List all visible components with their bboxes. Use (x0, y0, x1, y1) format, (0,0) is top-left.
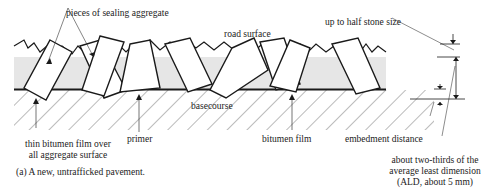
aggregate-label: pieces of sealing aggregate (66, 8, 169, 19)
bitumen-film-label: bitumen film (262, 134, 311, 145)
embedment-label: embedment distance (345, 134, 423, 145)
half-stone-label: up to half stone size (325, 17, 401, 28)
ald-line1: about two-thirds of the (375, 155, 486, 166)
caption: (a) A new, untrafficked pavement. (16, 167, 145, 178)
basecourse-label: basecourse (191, 101, 233, 112)
road-surface-label: road surface (224, 29, 271, 40)
thin-film-label: thin bitumen film over all aggregate sur… (18, 139, 118, 161)
ald-label: about two-thirds of the average least di… (375, 155, 486, 188)
thin-film-line2: all aggregate surface (18, 150, 118, 161)
thin-film-line1: thin bitumen film over (18, 139, 118, 150)
ald-line2: average least dimension (375, 166, 486, 177)
ald-line3: (ALD, about 5 mm) (375, 177, 486, 188)
primer-label: primer (127, 134, 152, 145)
